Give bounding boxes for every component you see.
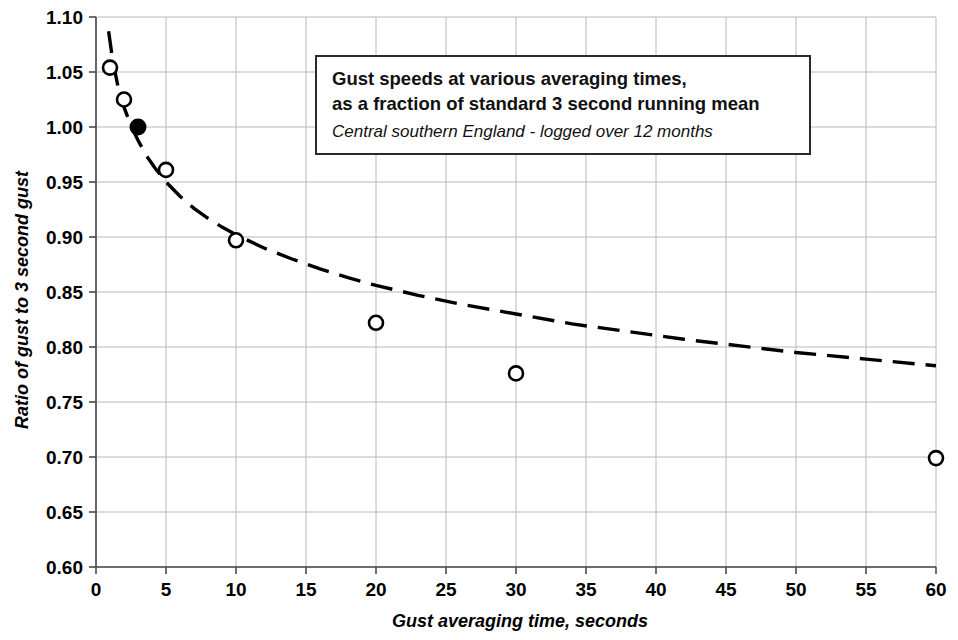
x-tick-label: 25: [435, 579, 457, 600]
y-tick-label: 0.95: [46, 172, 83, 193]
title-line-2: as a fraction of standard 3 second runni…: [332, 93, 760, 114]
x-tick-label: 45: [715, 579, 737, 600]
x-tick-label: 10: [225, 579, 246, 600]
data-points-filled: [131, 120, 146, 135]
title-line-1: Gust speeds at various averaging times,: [332, 68, 687, 89]
x-tick-label: 0: [91, 579, 102, 600]
data-point: [117, 93, 131, 107]
y-tick-label: 0.70: [46, 447, 83, 468]
data-point: [159, 163, 173, 177]
x-tick-label: 55: [855, 579, 877, 600]
data-point: [229, 233, 243, 247]
x-tick-label: 20: [365, 579, 386, 600]
x-axis-title-text: Gust averaging time, seconds: [392, 611, 648, 631]
x-tick-label: 5: [161, 579, 172, 600]
title-box: Gust speeds at various averaging times, …: [316, 56, 810, 154]
y-tick-label: 1.10: [46, 7, 83, 28]
x-tick-label: 35: [575, 579, 597, 600]
y-axis-title-text: Ratio of gust to 3 second gust: [12, 170, 32, 429]
y-axis-title: Ratio of gust to 3 second gust: [12, 170, 32, 429]
y-tick-label: 0.90: [46, 227, 83, 248]
x-tick-label: 60: [925, 579, 946, 600]
title-subtitle: Central southern England - logged over 1…: [332, 122, 713, 141]
y-tick-label: 0.85: [46, 282, 83, 303]
x-tick-label: 50: [785, 579, 806, 600]
data-point: [369, 316, 383, 330]
y-tick-label: 0.80: [46, 337, 83, 358]
data-point: [103, 61, 117, 75]
y-tick-label: 0.60: [46, 557, 83, 578]
x-tick-label: 15: [295, 579, 317, 600]
x-tick-label: 30: [505, 579, 526, 600]
y-tick-label: 0.65: [46, 502, 83, 523]
y-tick-label: 0.75: [46, 392, 83, 413]
chart-container: 0.600.650.700.750.800.850.900.951.001.05…: [0, 0, 958, 640]
y-tick-label: 1.00: [46, 117, 83, 138]
gust-ratio-chart: 0.600.650.700.750.800.850.900.951.001.05…: [0, 0, 958, 640]
data-point: [929, 451, 943, 465]
x-tick-label: 40: [645, 579, 666, 600]
y-tick-label: 1.05: [46, 62, 83, 83]
x-axis-title: Gust averaging time, seconds: [392, 611, 648, 631]
data-point: [509, 366, 523, 380]
data-point-reference: [131, 120, 146, 135]
